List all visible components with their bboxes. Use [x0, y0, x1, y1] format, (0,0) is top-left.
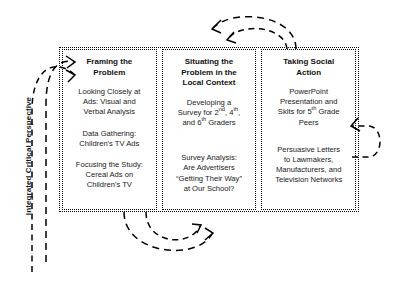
column-framing-the-problem[interactable]: Framing theProblem Looking Closely atAds… — [62, 49, 157, 210]
column-1-title: Framing theProblem — [86, 57, 132, 78]
process-columns: Framing theProblem Looking Closely atAds… — [62, 49, 356, 210]
bottom-inner-arc — [146, 212, 200, 240]
column-2-title: Situating theProblem in theLocal Context — [181, 57, 237, 89]
column-2-blocks: Developing aSurvey for 2nd, 4th,and 6th … — [167, 98, 252, 194]
integrated-critical-perspective-label: Integrated Critical Perspective — [24, 0, 46, 96]
column-3-title: Taking SocialAction — [283, 57, 334, 78]
side-label-text: Integrated Critical Perspective — [24, 96, 34, 216]
column-1-block-3: Focusing the Study:Cereal Ads onChildren… — [76, 160, 143, 191]
column-1-block-2: Data Gathering:Children's TV Ads — [79, 129, 139, 149]
diagram-canvas: Integrated Critical Perspective Framing … — [0, 0, 401, 282]
column-2-block-2: Survey Analysis:Are Advertisers“Getting … — [176, 153, 242, 194]
top-outer-arc — [213, 17, 296, 49]
column-situating-the-problem[interactable]: Situating theProblem in theLocal Context… — [162, 49, 257, 210]
column-3-block-2: Persuasive Lettersto Lawmakers,Manufactu… — [275, 145, 342, 186]
bottom-outer-arrowhead — [205, 228, 213, 240]
column-1-block-1: Looking Closely atAds: Visual andVerbal … — [78, 87, 140, 118]
column-1-blocks: Looking Closely atAds: Visual andVerbal … — [67, 87, 152, 191]
column-3-block-1: PowerPointPresentation andSkits for 5th … — [278, 87, 340, 128]
top-inner-arc — [228, 29, 287, 49]
top-outer-arrowhead — [212, 20, 221, 33]
column-taking-social-action[interactable]: Taking SocialAction PowerPointPresentati… — [261, 49, 356, 210]
column-2-block-1: Developing aSurvey for 2nd, 4th,and 6th … — [178, 98, 240, 129]
bottom-outer-arc — [124, 212, 212, 250]
bottom-inner-arrowhead — [192, 224, 201, 233]
column-3-blocks: PowerPointPresentation andSkits for 5th … — [266, 87, 351, 186]
top-inner-arrowhead — [227, 32, 236, 43]
